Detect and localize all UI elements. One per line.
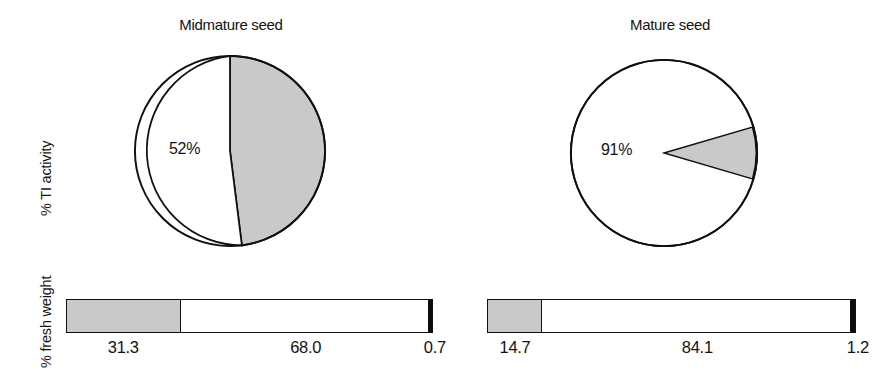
pie-percent-label-mature: 91% <box>601 141 632 159</box>
pie-mature-svg <box>567 56 761 250</box>
pie-midmature-svg <box>132 53 328 249</box>
bar-values-mature: 14.7 84.1 1.2 <box>487 338 856 362</box>
panel-title-mature: Mature seed <box>590 16 750 33</box>
bar-segment-black-midmature <box>429 300 432 332</box>
bar-value-white-midmature: 68.0 <box>290 338 321 357</box>
bar-segment-gray-midmature <box>67 300 181 332</box>
bar-segment-gray-mature <box>488 300 542 332</box>
bar-values-midmature: 31.3 68.0 0.7 <box>66 338 433 362</box>
bar-segment-white-mature <box>542 300 851 332</box>
pie-slice-gray-midmature <box>230 56 325 245</box>
y-axis-label-fresh-weight: % fresh weight <box>38 276 54 368</box>
bar-segment-white-midmature <box>181 300 429 332</box>
panel-title-midmature: Midmature seed <box>146 16 316 33</box>
bar-segment-black-mature <box>851 300 855 332</box>
figure-canvas: % TI activity % fresh weight Midmature s… <box>0 0 888 392</box>
bar-value-gray-midmature: 31.3 <box>108 338 139 357</box>
bar-value-black-midmature: 0.7 <box>424 338 446 357</box>
bar-value-white-mature: 84.1 <box>682 338 713 357</box>
pie-chart-midmature <box>132 53 328 249</box>
bar-value-gray-mature: 14.7 <box>500 338 531 357</box>
pie-chart-mature <box>567 56 761 250</box>
stacked-bar-midmature <box>66 299 433 333</box>
stacked-bar-mature <box>487 299 856 333</box>
pie-percent-label-midmature: 52% <box>169 140 200 158</box>
bar-value-black-mature: 1.2 <box>847 338 869 357</box>
y-axis-label-ti-activity: % TI activity <box>38 141 54 216</box>
